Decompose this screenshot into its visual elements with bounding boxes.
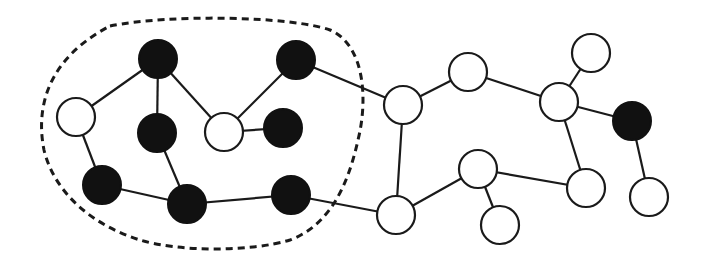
- node-I-black: [272, 176, 310, 214]
- node-O-white: [459, 150, 497, 188]
- node-S-white: [481, 206, 519, 244]
- node-E-black: [277, 41, 315, 79]
- node-B-black: [139, 40, 177, 78]
- node-F-black: [264, 109, 302, 147]
- node-J-white: [384, 86, 422, 124]
- node-Q-white: [630, 178, 668, 216]
- node-H-black: [168, 185, 206, 223]
- nodes-layer: [57, 34, 668, 244]
- node-A-white: [57, 98, 95, 136]
- node-G-black: [83, 166, 121, 204]
- node-D-white: [205, 113, 243, 151]
- node-M-white: [540, 83, 578, 121]
- network-graph-diagram: [0, 0, 701, 265]
- node-K-white: [449, 53, 487, 91]
- node-C-black: [138, 114, 176, 152]
- node-P-white: [567, 169, 605, 207]
- node-N-black: [613, 102, 651, 140]
- node-R-white: [377, 196, 415, 234]
- node-L-white: [572, 34, 610, 72]
